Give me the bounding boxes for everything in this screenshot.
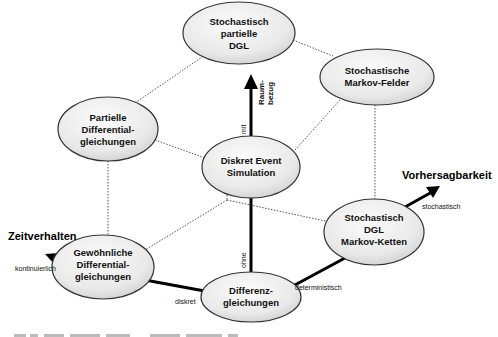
node-label-line: Diskret Event bbox=[221, 155, 283, 166]
node-label-line: partielle bbox=[221, 28, 257, 39]
node-label-line: DGL bbox=[364, 224, 384, 235]
node-label-line: Differenz- bbox=[229, 285, 273, 296]
edge-hub-to-markovketten bbox=[227, 200, 330, 222]
node-differenzgleichungen: Differenz- gleichungen bbox=[201, 272, 301, 322]
edge-partielle-to-stochpartielle bbox=[135, 55, 205, 103]
node-label-line: Markov-Felder bbox=[345, 77, 410, 88]
node-label-line: Partielle bbox=[90, 112, 127, 123]
edge-hub-to-gewoehnliche bbox=[145, 200, 227, 250]
node-label-line: DGL bbox=[229, 40, 249, 51]
edge-stochpartielle-to-markovfelder bbox=[293, 40, 333, 56]
node-partielle-dgl: Partielle Differential- gleichungen bbox=[58, 97, 158, 161]
edge-partielle-to-diskretevent bbox=[155, 140, 205, 158]
raumbezug-label-mit: mit bbox=[240, 125, 247, 134]
node-label-line: Stochastische bbox=[345, 65, 409, 76]
edge-markovfelder-to-diskretevent bbox=[295, 100, 340, 150]
node-label-line: Differential- bbox=[77, 259, 130, 270]
zeitverhalten-label-diskret: diskret bbox=[175, 298, 196, 305]
zeitverhalten-label-kontinuierlich: kontinuierlich bbox=[15, 265, 56, 272]
node-label-line: Stochastisch bbox=[344, 212, 403, 223]
node-stoch-markov-ketten: Stochastisch DGL Markov-Ketten bbox=[324, 199, 424, 265]
axis-zeitverhalten-right bbox=[145, 280, 210, 292]
vorhersagbarkeit-label-deterministisch: deterministisch bbox=[295, 284, 342, 291]
node-diskret-event: Diskret Event Simulation bbox=[202, 136, 300, 198]
diagram-svg: Stochastisch partielle DGL Stochastische… bbox=[0, 0, 498, 337]
node-gewoehnliche-dgl: Gewöhnliche Differential- gleichungen bbox=[52, 235, 154, 299]
node-label-line: gleichungen bbox=[75, 271, 131, 282]
svg-text:Raum-: Raum- bbox=[257, 80, 266, 105]
vorhersagbarkeit-title: Vorhersagbarkeit bbox=[402, 169, 492, 181]
raumbezug-label-ohne: ohne bbox=[240, 252, 247, 268]
node-label-line: Differential- bbox=[82, 124, 135, 135]
node-stoch-markov-felder: Stochastische Markov-Felder bbox=[320, 49, 434, 105]
node-label-line: gleichungen bbox=[223, 297, 279, 308]
node-stoch-partielle-dgl: Stochastisch partielle DGL bbox=[183, 2, 295, 64]
arrow-vorhersagbarkeit-icon bbox=[426, 186, 440, 198]
node-label-line: Gewöhnliche bbox=[73, 247, 132, 258]
zeitverhalten-title: Zeitverhalten bbox=[8, 230, 77, 242]
node-label-line: gleichungen bbox=[80, 136, 136, 147]
arrow-raumbezug-icon bbox=[244, 74, 258, 89]
svg-text:bezug: bezug bbox=[266, 82, 275, 105]
vorhersagbarkeit-label-stochastisch: stochastisch bbox=[422, 203, 461, 210]
diagram-canvas: Stochastisch partielle DGL Stochastische… bbox=[0, 0, 498, 337]
node-label-line: Markov-Ketten bbox=[341, 236, 407, 247]
node-label-line: Simulation bbox=[227, 167, 276, 178]
axis-vorhersagbarkeit-lower bbox=[293, 258, 345, 286]
node-label-line: Stochastisch bbox=[209, 16, 268, 27]
raumbezug-title: Raum- bezug bbox=[257, 80, 275, 105]
